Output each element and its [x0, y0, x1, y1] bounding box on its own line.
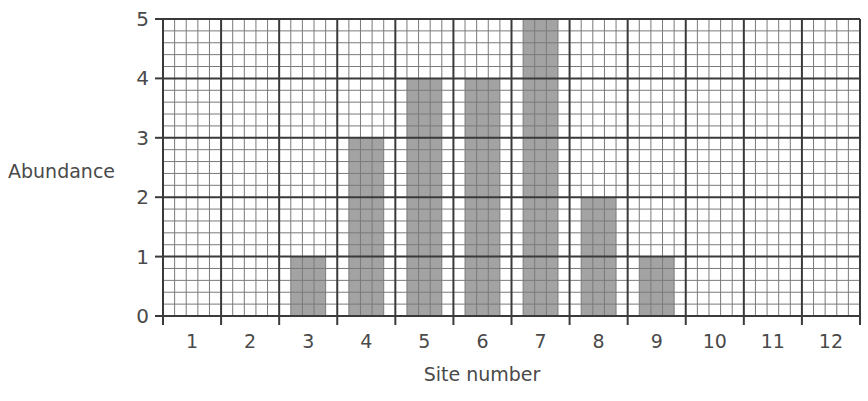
bar-chart: 012345 123456789101112 Abundance Site nu…: [0, 0, 868, 401]
x-tick-label: 12: [819, 330, 843, 352]
x-tick-label: 10: [703, 330, 727, 352]
y-axis-label: Abundance: [8, 160, 115, 182]
x-tick-label: 1: [186, 330, 198, 352]
x-axis-label: Site number: [424, 363, 541, 385]
x-tick-label: 5: [418, 330, 430, 352]
bar-site-4: [349, 138, 384, 316]
bar-site-9: [639, 257, 674, 316]
y-tick-label: 0: [136, 304, 149, 328]
y-tick-label: 1: [136, 245, 149, 269]
x-tick-label: 4: [360, 330, 372, 352]
x-tick-label: 11: [761, 330, 785, 352]
x-tick-label: 7: [534, 330, 546, 352]
x-tick-label: 9: [651, 330, 663, 352]
axis-ticks: [155, 19, 860, 325]
x-tick-label: 8: [593, 330, 605, 352]
bar-site-7: [523, 19, 558, 316]
y-tick-label: 5: [136, 7, 149, 31]
x-tick-label: 3: [302, 330, 314, 352]
y-tick-labels: 012345: [136, 7, 149, 328]
x-tick-labels: 123456789101112: [186, 330, 843, 352]
y-tick-label: 2: [136, 185, 149, 209]
x-tick-label: 2: [244, 330, 256, 352]
y-tick-label: 4: [136, 66, 149, 90]
y-tick-label: 3: [136, 126, 149, 150]
x-tick-label: 6: [476, 330, 488, 352]
bar-site-3: [291, 257, 326, 316]
bars: [291, 19, 674, 316]
